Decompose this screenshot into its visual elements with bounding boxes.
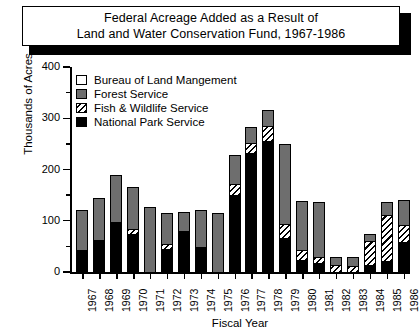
- bar-segment-fs-1978: [263, 111, 273, 126]
- x-tick-label-1970: 1970: [137, 289, 149, 312]
- bar-segment-fs-1983: [348, 258, 358, 266]
- bar-1984: [364, 234, 376, 273]
- x-tick-label-1967: 1967: [86, 289, 98, 312]
- y-tick-label-0: 0: [20, 266, 60, 277]
- x-tick-label-1985: 1985: [391, 289, 403, 312]
- y-axis-title: Thousands of Acres: [22, 24, 34, 184]
- bar-segment-fws-1976: [230, 184, 240, 195]
- bar-segment-nps-1968: [94, 240, 104, 272]
- x-tick-1986: [404, 274, 405, 279]
- x-tick-1985: [387, 274, 388, 279]
- x-tick-label-1983: 1983: [357, 289, 369, 312]
- x-tick-label-1980: 1980: [306, 289, 318, 312]
- title-frame: Federal Acreage Added as a Result of Lan…: [22, 6, 400, 46]
- y-axis-ticks: [62, 67, 70, 274]
- bar-segment-nps-1984: [365, 265, 375, 272]
- x-tick-1970: [133, 274, 134, 279]
- x-tick-1974: [201, 274, 202, 279]
- chart-figure: Federal Acreage Added as a Result of Lan…: [0, 0, 420, 333]
- bar-1969: [110, 175, 122, 273]
- bar-segment-fs-1981: [314, 203, 324, 257]
- white-square-icon: [76, 75, 87, 85]
- legend-item-label: Fish & Wildlife Service: [94, 102, 208, 114]
- x-tick-1977: [251, 274, 252, 279]
- legend-item-blm: Bureau of Land Mangement: [76, 73, 237, 87]
- bar-segment-fs-1979: [280, 145, 290, 224]
- legend-item-label: Forest Service: [94, 88, 168, 100]
- bar-1974: [195, 210, 207, 273]
- x-tick-1981: [319, 274, 320, 279]
- bar-1980: [296, 201, 308, 273]
- bar-1979: [279, 144, 291, 273]
- x-tick-label-1974: 1974: [205, 289, 217, 312]
- bar-segment-nps-1986: [399, 242, 409, 272]
- bar-segment-nps-1972: [162, 249, 172, 272]
- x-tick-1979: [285, 274, 286, 279]
- bar-segment-fs-1982: [331, 258, 341, 265]
- bar-segment-fs-1967: [77, 211, 87, 250]
- x-tick-label-1986: 1986: [408, 289, 420, 312]
- bar-segment-fws-1982: [331, 265, 341, 272]
- legend-item-label: Bureau of Land Mangement: [94, 74, 237, 86]
- x-tick-label-1977: 1977: [255, 289, 267, 312]
- bar-segment-fs-1971: [145, 208, 155, 272]
- bar-1972: [161, 213, 173, 273]
- bar-segment-fws-1980: [297, 250, 307, 260]
- bar-segment-nps-1980: [297, 260, 307, 272]
- y-tick-label-200: 200: [20, 164, 60, 175]
- bar-segment-fs-1974: [196, 211, 206, 246]
- y-tick-50: [66, 246, 70, 247]
- bar-segment-fs-1969: [111, 176, 121, 222]
- bar-1971: [144, 207, 156, 273]
- bar-segment-fs-1973: [179, 213, 189, 231]
- y-tick-150: [66, 194, 70, 195]
- bar-1968: [93, 198, 105, 273]
- x-tick-1971: [150, 274, 151, 279]
- bar-segment-fws-1985: [382, 215, 392, 261]
- bar-segment-fs-1968: [94, 199, 104, 240]
- legend-item-fws: Fish & Wildlife Service: [76, 101, 237, 115]
- bar-1985: [381, 202, 393, 273]
- bar-segment-fs-1980: [297, 202, 307, 249]
- y-tick-300: [63, 118, 70, 119]
- bar-segment-nps-1981: [314, 263, 324, 272]
- y-tick-label-400: 400: [20, 61, 60, 72]
- bar-1977: [245, 127, 257, 273]
- chart-title-box: Federal Acreage Added as a Result of Lan…: [22, 6, 404, 50]
- bar-segment-fs-1976: [230, 156, 240, 185]
- legend-item-label: National Park Service: [94, 116, 205, 128]
- chart-title-line-2: Land and Water Conservation Fund, 1967-1…: [77, 26, 346, 42]
- y-tick-label-300: 300: [20, 112, 60, 123]
- bar-1978: [262, 110, 274, 273]
- x-tick-1984: [370, 274, 371, 279]
- bar-1986: [398, 200, 410, 273]
- x-tick-label-1968: 1968: [103, 289, 115, 312]
- x-tick-1973: [184, 274, 185, 279]
- bar-segment-nps-1969: [111, 222, 121, 272]
- x-tick-label-1976: 1976: [239, 289, 251, 312]
- bar-segment-fs-1977: [246, 128, 256, 143]
- y-tick-350: [66, 92, 70, 93]
- x-tick-1976: [235, 274, 236, 279]
- bar-1967: [76, 210, 88, 273]
- x-tick-1975: [218, 274, 219, 279]
- chart-title-line-1: Federal Acreage Added as a Result of: [104, 10, 318, 26]
- bar-segment-fws-1986: [399, 225, 409, 242]
- y-tick-0: [63, 271, 70, 272]
- bar-1970: [127, 187, 139, 273]
- x-tick-label-1984: 1984: [374, 289, 386, 312]
- x-tick-label-1969: 1969: [120, 289, 132, 312]
- bar-1976: [229, 155, 241, 273]
- x-tick-1980: [302, 274, 303, 279]
- x-tick-1972: [167, 274, 168, 279]
- bar-segment-fws-1978: [263, 126, 273, 141]
- hatched-square-icon: [76, 103, 87, 113]
- gray-square-icon: [76, 89, 87, 99]
- x-tick-label-1975: 1975: [222, 289, 234, 312]
- bar-segment-fws-1984: [365, 241, 375, 265]
- black-square-icon: [76, 117, 87, 127]
- x-tick-label-1981: 1981: [323, 289, 335, 312]
- bar-segment-nps-1985: [382, 261, 392, 272]
- bar-segment-fs-1986: [399, 201, 409, 224]
- bar-segment-nps-1967: [77, 250, 87, 272]
